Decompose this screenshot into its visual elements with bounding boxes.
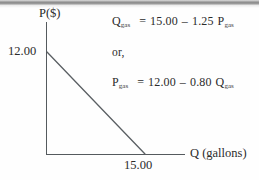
eq1-rhs-subscript: gas (224, 21, 233, 29)
eq1-equals: = (139, 14, 146, 28)
x-intercept-tick-label: 15.00 (124, 159, 152, 172)
eq2-equals: = (137, 75, 144, 89)
eq2-minus: – (180, 75, 186, 89)
eq2-rhs-subscript: gas (224, 82, 233, 90)
equation-block: Qgas=15.00–1.25Pgas or, Pgas=12.00–0.80Q… (112, 14, 259, 90)
eq2-slope: 0.80 (190, 75, 212, 89)
y-intercept-tick-label: 12.00 (8, 45, 36, 58)
y-axis-label: P($) (39, 7, 61, 20)
figure-canvas: P($) Q (gallons) 12.00 15.00 Qgas=15.00–… (0, 0, 259, 180)
eq1-intercept: 15.00 (150, 14, 178, 28)
equation-connector: or, (112, 46, 259, 58)
eq1-slope: 1.25 (192, 14, 214, 28)
equation-quantity: Qgas=15.00–1.25Pgas (112, 14, 259, 29)
eq2-lhs-subscript: gas (119, 82, 128, 90)
x-axis-label: Q (gallons) (190, 147, 247, 160)
eq2-lhs-variable: P (112, 75, 119, 89)
eq1-minus: – (182, 14, 188, 28)
eq2-intercept: 12.00 (148, 75, 176, 89)
eq1-lhs-variable: Q (112, 14, 121, 28)
eq1-lhs-subscript: gas (121, 21, 130, 29)
equation-price: Pgas=12.00–0.80Qgas (112, 75, 259, 90)
